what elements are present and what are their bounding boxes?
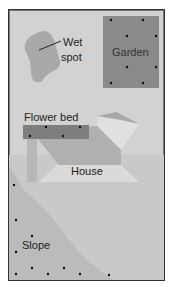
house-label: House bbox=[71, 165, 103, 177]
garden-label: Garden bbox=[112, 46, 149, 58]
wet-spot-shape bbox=[25, 31, 60, 82]
yard-diagram: Wet spot Garden Flower bed House Slope bbox=[8, 9, 165, 281]
house-wall-left bbox=[27, 138, 37, 182]
slope-region bbox=[9, 165, 114, 280]
flower-bed-label: Flower bed bbox=[24, 111, 78, 123]
wet-spot-label-line2: spot bbox=[61, 51, 82, 63]
slope-label: Slope bbox=[22, 239, 50, 251]
wet-spot-label-line1: Wet bbox=[63, 36, 82, 48]
